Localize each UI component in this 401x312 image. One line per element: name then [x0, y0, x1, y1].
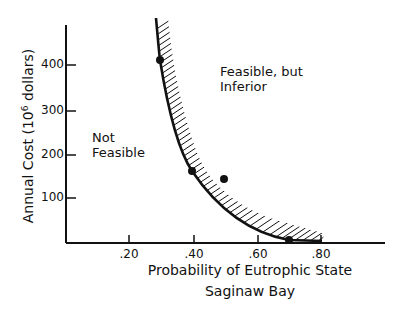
annotation-line: Not [92, 130, 145, 145]
y-ticks [66, 65, 76, 198]
feasible-hatching [140, 0, 385, 243]
x-tick-label-20: .20 [109, 247, 149, 261]
data-point [285, 236, 293, 244]
annotation-not-feasible: Not Feasible [92, 130, 145, 160]
y-tick-label-200: 200 [34, 147, 64, 161]
data-point [188, 167, 196, 175]
x-axis-sublabel: Saginaw Bay [205, 283, 295, 299]
y-axis-label-prefix: Annual Cost (10 [20, 111, 36, 223]
y-tick-label-400: 400 [34, 57, 64, 71]
y-tick-label-300: 300 [34, 103, 64, 117]
y-tick-label-100: 100 [34, 190, 64, 204]
efficient-frontier-curve [156, 18, 322, 241]
annotation-line: Feasible, but [220, 64, 303, 79]
annotation-line: Inferior [220, 79, 303, 94]
y-axis-label-exponent: 6 [20, 106, 30, 112]
annotation-line: Feasible [92, 145, 145, 160]
annotation-feasible-inferior: Feasible, but Inferior [220, 64, 303, 94]
x-tick-label-40: .40 [174, 247, 214, 261]
y-axis-label-suffix: dollars) [20, 49, 36, 106]
data-point [156, 56, 164, 64]
y-axis-label: Annual Cost (106 dollars) [20, 49, 37, 223]
data-point [220, 175, 228, 183]
x-tick-label-80: .80 [301, 247, 341, 261]
x-tick-label-60: .60 [238, 247, 278, 261]
x-axis-label: Probability of Eutrophic State [148, 262, 352, 278]
